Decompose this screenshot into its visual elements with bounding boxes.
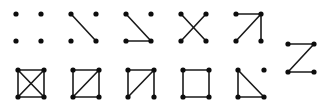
- graph-vertex-br: [261, 94, 266, 99]
- graph-vertex-bl: [125, 94, 130, 99]
- graph-edge: [238, 70, 264, 97]
- graph-complete-graph-k4: [15, 67, 46, 99]
- graph-vertex-tl: [180, 67, 185, 72]
- graph-vertex-tr: [41, 67, 46, 72]
- graph-edge: [71, 14, 96, 41]
- graph-edge: [126, 14, 151, 41]
- graph-edge: [128, 70, 154, 97]
- graph-vertex-tr: [258, 11, 263, 16]
- graph-vertex-br: [206, 94, 211, 99]
- graph-edge: [288, 44, 314, 72]
- graph-vertex-bl: [15, 94, 20, 99]
- graph-vertex-bl: [68, 38, 73, 43]
- graph-vertex-br: [148, 38, 153, 43]
- graph-vertex-tr: [151, 67, 156, 72]
- graph-vertex-tr: [93, 11, 98, 16]
- graphs-layer: [13, 11, 316, 99]
- graph-path-p3-plus-isolated-vertex: [123, 11, 153, 43]
- graph-vertex-tr: [206, 67, 211, 72]
- graph-vertex-tr: [96, 67, 101, 72]
- graph-single-edge-graph: [68, 11, 98, 43]
- graph-star-k13: [233, 11, 263, 43]
- graph-vertex-bl: [70, 94, 75, 99]
- graph-vertex-tl: [285, 41, 290, 46]
- graph-figure: [0, 0, 330, 109]
- graph-vertex-br: [203, 38, 208, 43]
- graph-vertex-bl: [285, 69, 290, 74]
- graph-vertex-br: [151, 94, 156, 99]
- graph-vertex-tr: [148, 11, 153, 16]
- graph-vertex-br: [311, 69, 316, 74]
- graph-vertex-bl: [180, 94, 185, 99]
- graph-vertex-tl: [235, 67, 240, 72]
- graph-vertex-tr: [203, 11, 208, 16]
- graph-vertex-tl: [70, 67, 75, 72]
- graph-vertex-bl: [13, 38, 18, 43]
- graph-vertex-br: [96, 94, 101, 99]
- graph-canvas: [0, 0, 330, 109]
- graph-two-disjoint-edges-crossing: [178, 11, 208, 43]
- graph-vertex-bl: [178, 38, 183, 43]
- graph-empty-graph: [13, 11, 43, 43]
- graph-vertex-br: [38, 38, 43, 43]
- graph-vertex-tl: [233, 11, 238, 16]
- graph-vertex-tl: [125, 67, 130, 72]
- graph-vertex-tr: [311, 41, 316, 46]
- graph-cycle-c4: [180, 67, 211, 99]
- graph-vertex-br: [258, 38, 263, 43]
- graph-vertex-bl: [123, 38, 128, 43]
- graph-edge: [73, 70, 99, 97]
- graph-vertex-tr: [261, 67, 266, 72]
- graph-vertex-br: [93, 38, 98, 43]
- graph-vertex-tl: [13, 11, 18, 16]
- graph-paw-triangle-with-pendant: [125, 67, 156, 99]
- graph-vertex-tl: [123, 11, 128, 16]
- graph-vertex-tr: [38, 11, 43, 16]
- graph-vertex-tl: [15, 67, 20, 72]
- graph-vertex-br: [41, 94, 46, 99]
- graph-edge: [236, 14, 261, 41]
- graph-vertex-bl: [233, 38, 238, 43]
- graph-diamond-graph-k4-minus-edge: [70, 67, 101, 99]
- graph-path-p4-zigzag: [285, 41, 316, 74]
- graph-vertex-tl: [68, 11, 73, 16]
- graph-triangle-plus-isolated-vertex: [235, 67, 266, 99]
- graph-vertex-tl: [178, 11, 183, 16]
- graph-vertex-bl: [235, 94, 240, 99]
